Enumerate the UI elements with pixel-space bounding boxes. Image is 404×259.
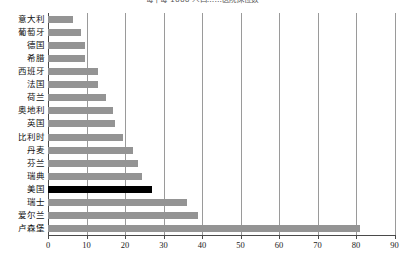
bar-8 (48, 120, 115, 127)
category-label-6: 荷兰 (1, 91, 45, 104)
category-label-2: 德国 (1, 39, 45, 52)
x-tick-0 (48, 235, 49, 239)
chart-row: 奥地利 (48, 104, 395, 117)
x-tick-label-80: 80 (352, 240, 361, 250)
x-axis-line (48, 235, 395, 236)
x-tick-label-70: 70 (313, 240, 322, 250)
category-label-7: 奥地利 (1, 104, 45, 117)
category-label-15: 爱尔兰 (1, 209, 45, 222)
x-tick-label-30: 30 (159, 240, 168, 250)
x-tick-40 (202, 235, 203, 239)
x-tick-label-60: 60 (275, 240, 284, 250)
x-tick-20 (125, 235, 126, 239)
chart-row: 瑞士 (48, 196, 395, 209)
x-tick-label-50: 50 (236, 240, 245, 250)
category-label-14: 瑞士 (1, 196, 45, 209)
bar-4 (48, 68, 98, 75)
x-tick-label-90: 90 (390, 240, 399, 250)
chart-row: 美国 (48, 183, 395, 196)
category-label-3: 希腊 (1, 52, 45, 65)
x-tick-label-0: 0 (46, 240, 50, 250)
category-label-8: 英国 (1, 117, 45, 130)
bar-1 (48, 29, 81, 36)
chart-row: 瑞典 (48, 170, 395, 183)
category-label-5: 法国 (1, 78, 45, 91)
x-tick-label-40: 40 (198, 240, 207, 250)
chart-row: 法国 (48, 78, 395, 91)
bar-5 (48, 81, 98, 88)
category-label-9: 比利时 (1, 131, 45, 144)
x-tick-60 (279, 235, 280, 239)
x-tick-label-20: 20 (121, 240, 130, 250)
bar-10 (48, 147, 133, 154)
chart-row: 比利时 (48, 131, 395, 144)
x-tick-70 (318, 235, 319, 239)
plot-inner: 0102030405060708090意大利葡萄牙德国希腊西班牙法国荷兰奥地利英… (48, 13, 395, 235)
x-tick-50 (241, 235, 242, 239)
category-label-4: 西班牙 (1, 65, 45, 78)
bar-3 (48, 55, 85, 62)
bar-2 (48, 42, 85, 49)
x-tick-label-10: 10 (82, 240, 91, 250)
x-tick-80 (356, 235, 357, 239)
bar-9 (48, 134, 123, 141)
category-label-1: 葡萄牙 (1, 26, 45, 39)
bar-11 (48, 160, 138, 167)
chart-row: 荷兰 (48, 91, 395, 104)
bar-15 (48, 212, 198, 219)
bar-chart: 每千每 1000 人口……医院床位数 0102030405060708090意大… (0, 0, 404, 259)
category-label-10: 丹麦 (1, 144, 45, 157)
chart-row: 德国 (48, 39, 395, 52)
x-tick-90 (395, 235, 396, 239)
chart-row: 芬兰 (48, 157, 395, 170)
bar-6 (48, 94, 106, 101)
chart-row: 葡萄牙 (48, 26, 395, 39)
bar-0 (48, 16, 73, 23)
category-label-13: 美国 (1, 183, 45, 196)
category-label-16: 卢森堡 (1, 222, 45, 235)
category-label-11: 芬兰 (1, 157, 45, 170)
bar-13 (48, 186, 152, 193)
chart-title: 每千每 1000 人口……医院床位数 (0, 0, 404, 4)
chart-row: 卢森堡 (48, 222, 395, 235)
chart-row: 意大利 (48, 13, 395, 26)
gridline-90 (395, 13, 396, 235)
chart-row: 希腊 (48, 52, 395, 65)
chart-row: 英国 (48, 117, 395, 130)
bar-16 (48, 225, 360, 232)
chart-row: 丹麦 (48, 144, 395, 157)
chart-row: 爱尔兰 (48, 209, 395, 222)
plot-area: 0102030405060708090意大利葡萄牙德国希腊西班牙法国荷兰奥地利英… (48, 13, 356, 235)
x-tick-30 (164, 235, 165, 239)
x-tick-10 (87, 235, 88, 239)
chart-row: 西班牙 (48, 65, 395, 78)
category-label-0: 意大利 (1, 13, 45, 26)
bar-7 (48, 107, 113, 114)
category-label-12: 瑞典 (1, 170, 45, 183)
bar-14 (48, 199, 187, 206)
bar-12 (48, 173, 142, 180)
